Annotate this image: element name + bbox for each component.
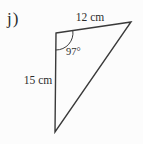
angle-label: 97° <box>66 46 81 57</box>
side-label-top: 12 cm <box>76 11 104 23</box>
triangle-diagram: 97° 12 cm 15 cm <box>0 0 143 144</box>
side-label-left: 15 cm <box>24 74 52 86</box>
triangle-outline <box>55 22 131 132</box>
geometry-figure: j) 97° 12 cm 15 cm <box>0 0 143 144</box>
